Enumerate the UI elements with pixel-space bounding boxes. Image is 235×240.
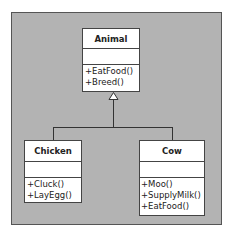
- operation: +LayEgg(): [27, 190, 80, 201]
- class-chicken: Chicken +Cluck() +LayEgg(): [24, 140, 82, 203]
- class-chicken-name: Chicken: [25, 141, 81, 162]
- class-cow-attributes: [140, 162, 204, 178]
- class-animal-attributes: [83, 49, 139, 65]
- class-cow-operations: +Moo() +SupplyMilk() +EatFood(): [140, 178, 204, 212]
- operation: +EatFood(): [85, 66, 138, 77]
- operation: +Breed(): [85, 77, 138, 88]
- connector-horizontal: [53, 127, 173, 128]
- operation: +EatFood(): [141, 201, 203, 212]
- generalization-arrow-icon: [108, 92, 119, 100]
- operation: +Moo(): [141, 179, 203, 190]
- class-chicken-attributes: [25, 162, 81, 178]
- connector-to-chicken: [53, 127, 54, 140]
- class-animal-name: Animal: [83, 29, 139, 49]
- class-chicken-operations: +Cluck() +LayEgg(): [25, 178, 81, 201]
- operation: +SupplyMilk(): [141, 190, 203, 201]
- class-animal-operations: +EatFood() +Breed(): [83, 65, 139, 88]
- class-cow: Cow +Moo() +SupplyMilk() +EatFood(): [139, 140, 205, 216]
- connector-vertical-trunk: [113, 100, 114, 128]
- operation: +Cluck(): [27, 179, 80, 190]
- connector-to-cow: [172, 127, 173, 140]
- class-cow-name: Cow: [140, 141, 204, 162]
- class-animal: Animal +EatFood() +Breed(): [82, 28, 140, 92]
